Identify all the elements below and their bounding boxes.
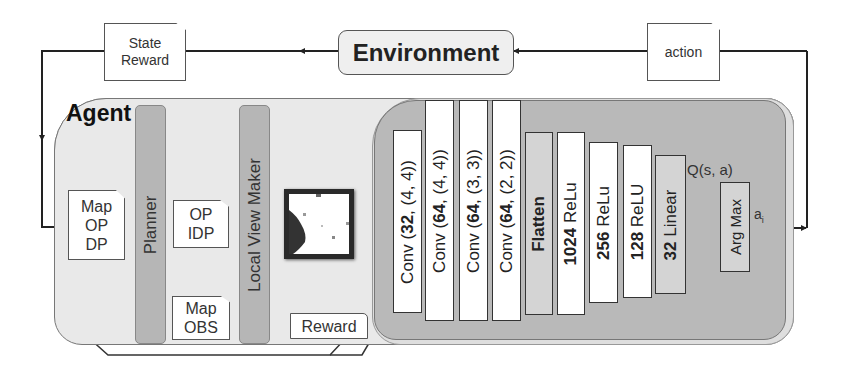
state-label: State	[121, 35, 169, 52]
map-label: Map	[81, 197, 112, 216]
planner-block: Planner	[135, 105, 166, 344]
local-view-maker-block: Local View Maker	[239, 105, 270, 344]
local-view-map-graphic	[289, 194, 349, 254]
conv-layer-2: Conv (64, (4, 4))	[425, 100, 454, 321]
op-idp-note: OP IDP	[173, 200, 229, 248]
idp-label: IDP	[188, 224, 215, 243]
argmax-label: Arg Max	[727, 199, 744, 255]
dense-1024-layer: 1024 ReLu	[557, 132, 585, 315]
reward-label: Reward	[121, 52, 169, 69]
dp-label: DP	[81, 235, 112, 254]
environment-box: Environment	[338, 30, 514, 75]
argmax-block: Arg Max	[720, 182, 750, 272]
planner-label: Planner	[141, 195, 161, 254]
conv-layer-1: Conv (32, (4, 4))	[393, 130, 422, 313]
local-view-maker-label: Local View Maker	[245, 158, 265, 292]
map-label: Map	[184, 299, 218, 318]
reward-note: Reward	[290, 313, 368, 339]
local-view-image	[284, 189, 354, 259]
flatten-layer: Flatten	[525, 132, 553, 315]
dense-256-layer: 256 ReLu	[589, 142, 618, 303]
action-note: action	[647, 23, 720, 81]
obs-label: OBS	[184, 318, 218, 337]
output-action-label: ai	[754, 206, 764, 225]
action-label: action	[665, 44, 702, 61]
agent-title: Agent	[66, 100, 131, 127]
reward-label: Reward	[301, 318, 356, 335]
environment-label: Environment	[353, 39, 500, 67]
conv-layer-3: Conv (64, (3, 3))	[459, 100, 488, 321]
op-label: OP	[81, 216, 112, 235]
map-op-dp-note: Map OP DP	[68, 190, 125, 260]
dense-128-layer: 128 ReLU	[623, 145, 652, 298]
map-obs-note: Map OBS	[172, 296, 230, 340]
state-reward-note: State Reward	[104, 23, 186, 81]
op-label: OP	[188, 205, 215, 224]
conv-layer-4: Conv (64, (2, 2))	[492, 100, 521, 321]
linear-32-layer: 32 Linear	[655, 155, 686, 294]
q-value-label: Q(s, a)	[687, 161, 733, 178]
